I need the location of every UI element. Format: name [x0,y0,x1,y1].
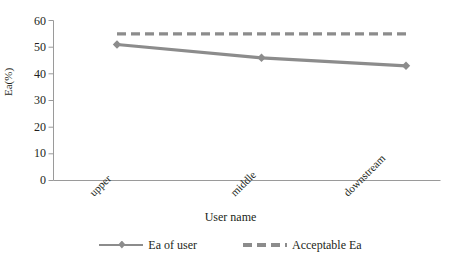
legend-label: Acceptable Ea [292,239,362,252]
legend-label: Ea of user [148,239,197,252]
x-tick-label: downstream [341,152,388,199]
x-tick-label: upper [87,172,113,198]
chart-figure: Ea(%) 60 50 40 30 20 10 0 [0,0,461,260]
x-tick-label: middle [228,168,258,198]
legend-swatch-dashed-line-icon [243,240,287,251]
legend-item-ea-of-user: Ea of user [99,239,197,252]
chart-legend: Ea of user Acceptable Ea [0,236,461,254]
legend-swatch-solid-line-icon [99,240,143,251]
legend-item-acceptable-ea: Acceptable Ea [243,239,362,252]
x-axis-title: User name [0,211,461,224]
